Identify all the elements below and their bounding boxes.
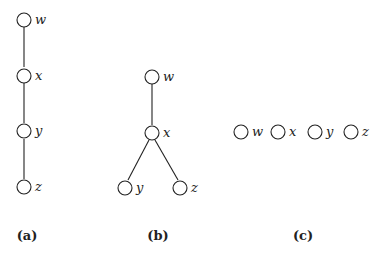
panel-a: w x y z (a) [17,12,47,243]
label-c-x: x [289,124,297,139]
label-c-w: w [252,124,263,139]
panel-b: w x y z (b) [118,69,198,243]
label-b-w: w [163,69,174,84]
node-a-x [17,69,31,83]
node-a-z [17,180,31,194]
label-c-z: z [361,124,369,139]
label-b-y: y [135,180,144,195]
figure-canvas: w x y z (a) w x y z (b) w x y z (c) [0,0,383,254]
label-a-x: x [35,68,43,83]
node-c-x [271,125,285,139]
label-a-y: y [34,123,43,138]
node-b-x [145,126,159,140]
node-a-y [17,124,31,138]
node-a-w [17,13,31,27]
caption-b: (b) [147,228,168,243]
label-c-y: y [325,124,334,139]
caption-a: (a) [17,228,38,243]
node-b-y [118,181,132,195]
node-c-y [308,125,322,139]
label-a-z: z [34,179,42,194]
edge-b-x-y [128,140,149,180]
edge-b-x-z [155,140,178,180]
node-b-z [173,181,187,195]
panel-c: w x y z (c) [234,124,369,243]
label-b-z: z [190,180,198,195]
node-c-w [234,125,248,139]
label-b-x: x [163,125,171,140]
node-b-w [145,70,159,84]
label-a-w: w [35,12,46,27]
caption-c: (c) [293,228,313,243]
node-c-z [344,125,358,139]
